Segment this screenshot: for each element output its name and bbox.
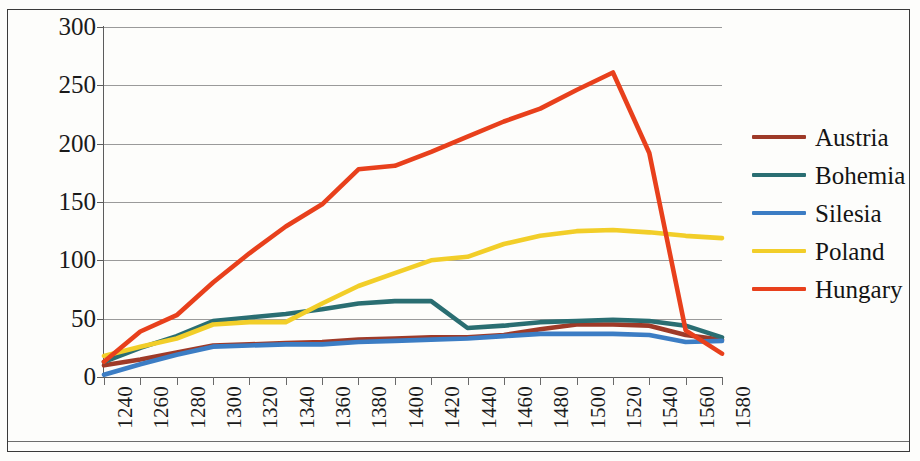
y-axis-tick <box>97 27 104 28</box>
x-axis-tick-label: 1260 <box>149 386 174 429</box>
x-axis-tick <box>249 377 250 385</box>
x-axis-tick-label: 1580 <box>731 386 756 429</box>
legend-swatch-icon <box>752 135 806 140</box>
legend-label: Silesia <box>815 201 882 226</box>
y-axis-tick <box>97 85 104 86</box>
x-axis-labels: 1240126012801300132013401360138014001420… <box>104 386 722 456</box>
x-axis-tick-label: 1440 <box>477 386 502 429</box>
legend-label: Austria <box>815 125 889 150</box>
x-axis-tick <box>722 377 723 385</box>
y-axis-tick-label: 150 <box>0 189 96 214</box>
legend-swatch-icon <box>752 211 806 216</box>
legend-item-austria[interactable]: Austria <box>752 118 912 156</box>
y-axis-tick <box>97 144 104 145</box>
x-axis-tick-label: 1340 <box>295 386 320 429</box>
y-axis-tick-label: 0 <box>0 364 96 389</box>
x-axis-tick <box>613 377 614 385</box>
x-axis-tick <box>177 377 178 385</box>
y-axis-tick <box>97 377 104 378</box>
x-axis-tick-label: 1560 <box>695 386 720 429</box>
x-axis-tick <box>286 377 287 385</box>
x-axis-tick-label: 1400 <box>404 386 429 429</box>
bottom-rule <box>8 441 909 442</box>
y-axis-tick-label: 50 <box>0 306 96 331</box>
x-axis-tick-label: 1420 <box>440 386 465 429</box>
chart-container: 050100150200250300 124012601280130013201… <box>0 0 920 461</box>
x-axis-tick-label: 1480 <box>549 386 574 429</box>
y-axis-labels: 050100150200250300 <box>0 0 96 461</box>
legend-item-silesia[interactable]: Silesia <box>752 194 912 232</box>
chart-legend: AustriaBohemiaSilesiaPolandHungary <box>752 118 912 308</box>
legend-label: Poland <box>815 239 884 264</box>
x-axis-tick-label: 1280 <box>186 386 211 429</box>
x-axis-tick-label: 1460 <box>513 386 538 429</box>
x-axis-tick <box>431 377 432 385</box>
legend-swatch-icon <box>752 287 806 292</box>
x-axis-tick-label: 1360 <box>331 386 356 429</box>
x-axis-tick-label: 1320 <box>258 386 283 429</box>
legend-item-bohemia[interactable]: Bohemia <box>752 156 912 194</box>
x-axis-tick-label: 1380 <box>367 386 392 429</box>
y-axis-tick <box>97 202 104 203</box>
x-axis-tick <box>358 377 359 385</box>
x-axis-tick <box>686 377 687 385</box>
x-axis-tick <box>577 377 578 385</box>
series-layer <box>104 27 722 377</box>
x-axis-tick-label: 1520 <box>622 386 647 429</box>
x-axis-tick <box>140 377 141 385</box>
legend-swatch-icon <box>752 249 806 254</box>
y-axis-tick-label: 100 <box>0 247 96 272</box>
x-axis-tick-label: 1240 <box>113 386 138 429</box>
x-axis-tick <box>468 377 469 385</box>
x-axis-tick-label: 1540 <box>658 386 683 429</box>
legend-item-hungary[interactable]: Hungary <box>752 270 912 308</box>
y-axis-tick-label: 200 <box>0 131 96 156</box>
x-axis-ticks <box>104 377 722 386</box>
legend-swatch-icon <box>752 173 806 178</box>
x-axis-tick <box>213 377 214 385</box>
series-line-silesia <box>104 334 722 375</box>
x-axis-tick <box>104 377 105 385</box>
y-axis-tick <box>97 260 104 261</box>
legend-label: Hungary <box>815 277 902 302</box>
x-axis-tick-label: 1300 <box>222 386 247 429</box>
legend-item-poland[interactable]: Poland <box>752 232 912 270</box>
x-axis-tick <box>540 377 541 385</box>
x-axis-tick <box>395 377 396 385</box>
x-axis-tick <box>649 377 650 385</box>
y-axis-tick <box>97 319 104 320</box>
plot-area <box>104 27 722 377</box>
y-axis-tick-label: 300 <box>0 14 96 39</box>
legend-label: Bohemia <box>815 163 905 188</box>
x-axis-tick-label: 1500 <box>586 386 611 429</box>
x-axis-tick <box>322 377 323 385</box>
x-axis-tick <box>504 377 505 385</box>
y-axis-tick-label: 250 <box>0 72 96 97</box>
